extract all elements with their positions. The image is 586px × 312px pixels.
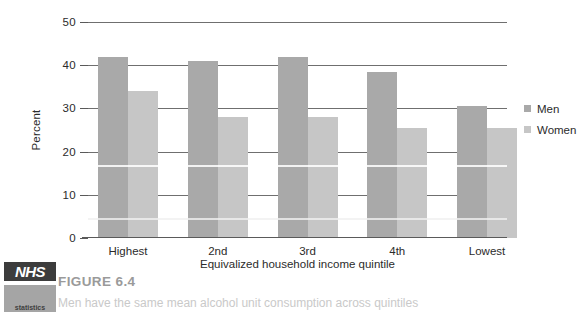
- y-tick-mark: [80, 195, 88, 196]
- nhs-logo-subtext: statistics: [4, 304, 56, 312]
- bar-men-highest[interactable]: [98, 57, 128, 238]
- bar-group: Highest: [98, 22, 158, 238]
- bar-men-lowest[interactable]: [457, 106, 487, 238]
- legend-label: Men: [537, 103, 559, 115]
- y-tick-label: 40: [63, 59, 76, 71]
- bar-women-2nd[interactable]: [218, 117, 248, 238]
- x-tick-label: Lowest: [457, 245, 517, 257]
- y-tick-label: 50: [63, 16, 76, 28]
- bar-chart: Percent Equivalized household income qui…: [0, 0, 586, 262]
- y-tick-mark: [80, 22, 88, 23]
- bar-women-highest[interactable]: [128, 91, 158, 238]
- bar-men-2nd[interactable]: [188, 61, 218, 238]
- bar-group: 3rd: [278, 22, 338, 238]
- x-tick-label: 3rd: [278, 245, 338, 257]
- y-tick-label: 20: [63, 146, 76, 158]
- figure-footer: NHS statistics FIGURE 6.4 Men have the s…: [0, 262, 586, 312]
- bar-men-3rd[interactable]: [278, 57, 308, 238]
- y-tick-label: 10: [63, 189, 76, 201]
- y-tick-mark: [80, 65, 88, 66]
- bar-group: 2nd: [188, 22, 248, 238]
- nhs-logo-mark: NHS: [4, 262, 56, 281]
- plot-area: 01020304050 Highest2nd3rd4thLowest: [88, 22, 507, 238]
- bar-group: 4th: [367, 22, 427, 238]
- y-tick-label: 30: [63, 102, 76, 114]
- x-axis-line: [82, 237, 507, 238]
- nhs-logo-subblock: statistics: [4, 285, 56, 312]
- figure-caption: Men have the same mean alcohol unit cons…: [58, 296, 578, 312]
- legend-item-men[interactable]: Men: [524, 100, 586, 117]
- y-tick-mark: [80, 108, 88, 109]
- y-tick-mark: [80, 238, 88, 239]
- legend-swatch-icon: [524, 126, 531, 133]
- y-tick-label: 0: [69, 232, 76, 244]
- legend: MenWomen: [524, 100, 586, 142]
- y-axis-title: Percent: [30, 109, 42, 150]
- bar-women-4th[interactable]: [397, 128, 427, 238]
- x-tick-label: 2nd: [188, 245, 248, 257]
- nhs-logo: NHS statistics: [4, 262, 56, 312]
- figure-container: Percent Equivalized household income qui…: [0, 0, 586, 312]
- legend-item-women[interactable]: Women: [524, 121, 586, 138]
- legend-swatch-icon: [524, 105, 531, 112]
- bar-group: Lowest: [457, 22, 517, 238]
- bar-women-lowest[interactable]: [487, 128, 517, 238]
- figure-number: FIGURE 6.4: [58, 274, 136, 289]
- legend-label: Women: [537, 124, 576, 136]
- bar-women-3rd[interactable]: [308, 117, 338, 238]
- bar-men-4th[interactable]: [367, 72, 397, 238]
- y-tick-mark: [80, 152, 88, 153]
- x-tick-label: 4th: [367, 245, 427, 257]
- x-tick-label: Highest: [98, 245, 158, 257]
